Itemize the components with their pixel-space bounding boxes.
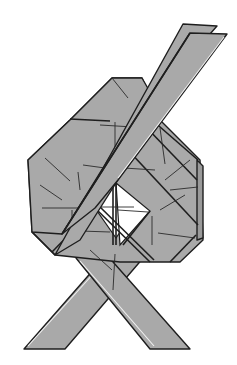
- origami-diagram: [0, 0, 237, 365]
